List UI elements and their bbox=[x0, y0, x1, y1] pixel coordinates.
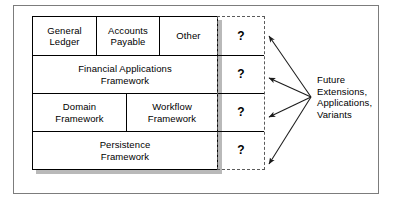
layer-row-financial-applications-framework: Financial ApplicationsFramework bbox=[32, 55, 218, 94]
layer-cell-general-ledger: GeneralLedger bbox=[33, 17, 96, 55]
layer-cell-other: Other bbox=[159, 17, 217, 55]
future-extensions-line-4: Variants bbox=[317, 109, 375, 121]
question-column: ? ? ? ? bbox=[217, 16, 265, 170]
layer-cell-accounts-payable: AccountsPayable bbox=[96, 17, 159, 55]
layer-cell-workflow-framework: WorkflowFramework bbox=[126, 94, 217, 131]
question-cell-4: ? bbox=[218, 131, 264, 169]
question-cell-2: ? bbox=[218, 55, 264, 94]
layer-cell-financial-applications-framework: Financial ApplicationsFramework bbox=[33, 56, 217, 93]
question-cell-1: ? bbox=[218, 17, 264, 56]
layer-row-applications: GeneralLedger AccountsPayable Other bbox=[32, 16, 218, 56]
future-extensions-line-2: Extensions, bbox=[317, 86, 375, 98]
future-extensions-line-1: Future bbox=[317, 74, 375, 86]
layer-stack: GeneralLedger AccountsPayable Other Fina… bbox=[32, 16, 218, 170]
layer-cell-domain-framework: DomainFramework bbox=[33, 94, 126, 131]
future-extensions-label: Future Extensions, Applications, Variant… bbox=[317, 74, 375, 120]
future-extensions-line-3: Applications, bbox=[317, 97, 375, 109]
question-cell-3: ? bbox=[218, 93, 264, 132]
layer-cell-persistence-framework: PersistenceFramework bbox=[33, 132, 217, 169]
layer-row-domain-workflow: DomainFramework WorkflowFramework bbox=[32, 93, 218, 132]
layer-row-persistence-framework: PersistenceFramework bbox=[32, 131, 218, 170]
